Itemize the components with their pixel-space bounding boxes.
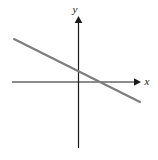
x-axis-label: x	[144, 75, 150, 87]
plotted-line-series	[14, 39, 140, 102]
graph-figure: y x	[0, 0, 158, 160]
line-segment	[14, 39, 140, 102]
x-axis	[12, 78, 141, 86]
y-axis-arrowhead-icon	[75, 16, 83, 23]
x-axis-arrowhead-icon	[134, 78, 141, 86]
y-axis-label: y	[72, 3, 78, 15]
coordinate-plane-svg: y x	[0, 0, 158, 160]
